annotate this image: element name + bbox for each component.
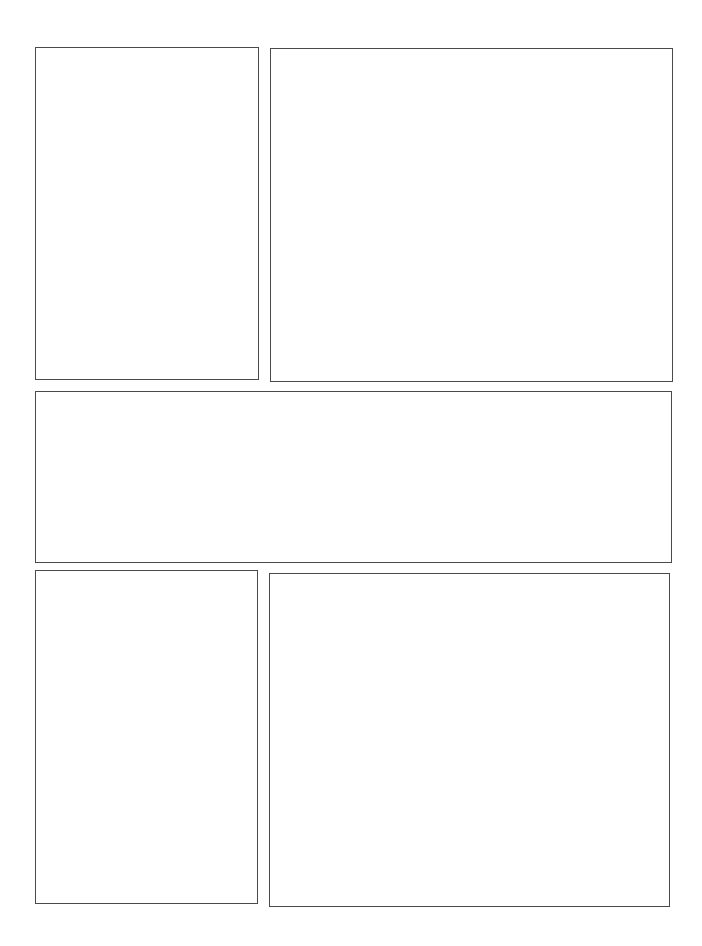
panel-5: [269, 573, 670, 907]
panel-1: [35, 47, 259, 380]
panel-4: [35, 570, 258, 904]
panel-2: [270, 48, 673, 382]
comic-page: [0, 0, 702, 946]
panel-3: [35, 391, 672, 563]
